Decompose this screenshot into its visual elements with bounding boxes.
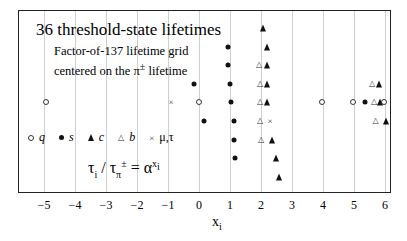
data-point-filled-circle-icon xyxy=(232,138,237,143)
legend-label: s xyxy=(69,130,74,145)
data-point-open-circle-icon xyxy=(381,99,387,105)
open-circle-icon xyxy=(28,135,34,141)
legend-item-mutau: ×μ,τ xyxy=(149,130,173,145)
chart-subtitle-line1: Factor-of-137 lifetime grid xyxy=(54,44,188,59)
data-point-filled-circle-icon xyxy=(192,82,197,87)
data-point-open-triangle-icon: △ xyxy=(369,80,375,88)
filled-circle-icon xyxy=(59,135,64,140)
x-tick-label: 3 xyxy=(289,198,295,213)
x-tick-label: 6 xyxy=(382,198,388,213)
x-tick-label: 1 xyxy=(227,198,233,213)
data-point-cross-icon: × xyxy=(267,117,272,126)
x-label-text: x xyxy=(212,214,219,229)
data-point-filled-triangle-icon xyxy=(264,44,270,51)
legend-item-b: △b xyxy=(118,130,135,145)
open-triangle-icon: △ xyxy=(118,133,124,142)
data-point-filled-circle-icon xyxy=(362,100,367,105)
data-point-filled-circle-icon xyxy=(228,100,233,105)
legend-item-s: s xyxy=(59,130,74,145)
data-point-filled-triangle-icon xyxy=(273,155,279,162)
legend-label: μ,τ xyxy=(159,130,173,145)
x-tick-label: −5 xyxy=(38,198,51,213)
data-point-open-triangle-icon: △ xyxy=(373,117,379,125)
data-point-cross-icon: × xyxy=(169,98,174,107)
data-point-filled-circle-icon xyxy=(232,156,237,161)
filled-triangle-icon xyxy=(88,134,94,141)
data-point-filled-circle-icon xyxy=(232,119,237,124)
cross-icon: × xyxy=(149,133,154,143)
x-tick-label: −3 xyxy=(100,198,113,213)
data-point-filled-triangle-icon xyxy=(269,137,275,144)
data-point-open-circle-icon xyxy=(196,99,202,105)
x-tick-label: 2 xyxy=(258,198,264,213)
data-point-open-triangle-icon: △ xyxy=(258,136,264,144)
x-tick-label: −1 xyxy=(162,198,175,213)
data-point-filled-triangle-icon xyxy=(264,62,270,69)
data-point-open-triangle-icon: △ xyxy=(257,98,263,106)
legend-item-c: c xyxy=(88,130,104,145)
data-point-filled-triangle-icon xyxy=(276,174,282,181)
x-tick-label: 0 xyxy=(196,198,202,213)
data-point-open-triangle-icon: △ xyxy=(257,117,263,125)
legend-label: b xyxy=(129,130,135,145)
data-point-filled-circle-icon xyxy=(226,63,231,68)
data-point-filled-circle-icon xyxy=(201,119,206,124)
data-point-open-circle-icon xyxy=(43,99,49,105)
x-tick-label: 4 xyxy=(320,198,326,213)
x-axis-label: xi xyxy=(212,214,222,232)
data-point-open-circle-icon xyxy=(350,99,356,105)
legend-item-q: q xyxy=(28,130,45,145)
data-point-filled-triangle-icon xyxy=(376,81,382,88)
data-point-open-triangle-icon: △ xyxy=(256,61,262,69)
data-point-filled-circle-icon xyxy=(226,45,231,50)
data-point-filled-triangle-icon xyxy=(260,25,266,32)
x-tick-label: −4 xyxy=(69,198,82,213)
x-tick-label: −2 xyxy=(131,198,144,213)
data-point-open-triangle-icon: △ xyxy=(257,80,263,88)
legend: q s c △b ×μ,τ xyxy=(28,130,188,145)
subtitle-text: centered on the xyxy=(54,64,133,78)
subtitle-text: lifetime xyxy=(145,64,187,78)
chart-subtitle-line2: centered on the π± lifetime xyxy=(54,61,187,79)
legend-label: c xyxy=(99,130,104,145)
legend-label: q xyxy=(39,130,45,145)
x-tick-label: 5 xyxy=(351,198,357,213)
data-point-filled-triangle-icon xyxy=(264,99,270,106)
data-point-filled-circle-icon xyxy=(228,82,233,87)
formula: τi / τπ± = αxi xyxy=(88,158,160,180)
x-label-sub: i xyxy=(219,221,222,232)
data-point-filled-triangle-icon xyxy=(383,118,389,125)
data-point-filled-triangle-icon xyxy=(264,81,270,88)
chart-title: 36 threshold-state lifetimes xyxy=(36,20,221,40)
data-point-open-circle-icon xyxy=(319,99,325,105)
